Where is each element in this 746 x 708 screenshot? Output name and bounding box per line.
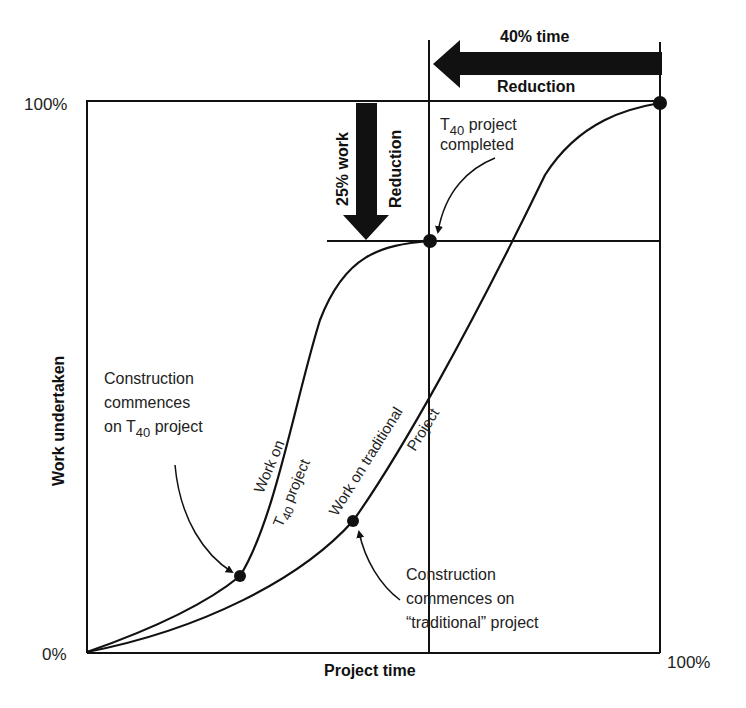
trad-curve-label-line2: Project	[403, 404, 443, 453]
work-reduction-label-left: 25% work	[334, 132, 351, 206]
t40-start-callout-line3: on T40 project	[104, 418, 203, 440]
time-reduction-label-bottom: Reduction	[497, 78, 575, 95]
t40-start-callout-line1: Construction	[104, 370, 194, 387]
x-tick-100: 100%	[667, 653, 710, 672]
chart-canvas: 100% 0% 100% Project time Work undertake…	[0, 0, 746, 708]
t40-completed-dot	[423, 234, 437, 248]
trad-start-callout-line3: “traditional” project	[406, 614, 539, 631]
t40-start-callout-arrow-icon	[175, 465, 232, 572]
trad-start-callout-arrow-icon	[359, 532, 400, 600]
trad-start-callout-line2: commences on	[406, 590, 515, 607]
y-tick-100: 100%	[24, 95, 67, 114]
completed-callout-line2: completed	[440, 136, 514, 153]
t40-start-callout-line2: commences	[104, 394, 190, 411]
t40-start-dot	[234, 570, 246, 582]
trad-start-callout-line1: Construction	[406, 566, 496, 583]
completed-callout-line1: T40 project	[440, 116, 517, 138]
work-reduction-label-right: Reduction	[387, 130, 404, 208]
traditional-start-dot	[347, 515, 359, 527]
time-reduction-label-top: 40% time	[500, 28, 569, 45]
completed-callout-arrow-icon	[438, 158, 495, 232]
y-axis-label: Work undertaken	[50, 356, 67, 486]
x-axis-label: Project time	[324, 662, 416, 679]
traditional-completed-dot	[653, 96, 667, 110]
y-tick-0: 0%	[42, 645, 67, 664]
